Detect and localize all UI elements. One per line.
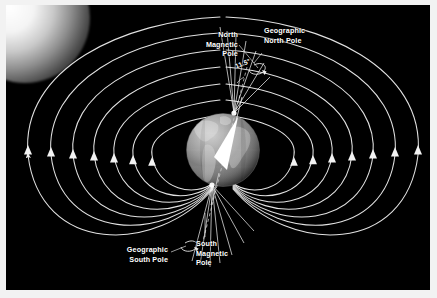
label-south-magnetic-pole: South Magnetic Pole [196, 239, 244, 268]
arrowhead-left-5 [110, 153, 118, 163]
label-north-magnetic-pole: North Magnetic Pole [182, 30, 238, 59]
arrowhead-right-7 [290, 157, 298, 166]
label-geographic-south-pole: Geographic South Pole [118, 245, 168, 264]
arrowhead-left-3 [69, 149, 77, 159]
arrowhead-left-6 [129, 155, 137, 164]
arrowhead-right-4 [348, 151, 356, 161]
arrowhead-left-7 [148, 157, 156, 166]
arrowhead-left-1 [24, 145, 32, 155]
arrowhead-left-2 [47, 147, 55, 157]
label-geographic-north-pole: Geographic North Pole [264, 26, 330, 45]
tilt-angle-arc [237, 77, 244, 83]
arrowhead-right-5 [328, 153, 336, 163]
south-magnetic-pole-point [209, 182, 214, 187]
arrowhead-right-1 [414, 145, 422, 155]
arrowhead-right-6 [309, 155, 317, 164]
north-magnetic-pole-point [231, 110, 236, 115]
magnetic-field-figure: North Magnetic Pole Geographic North Pol… [0, 0, 437, 298]
arrowhead-left-4 [90, 151, 98, 161]
arrowhead-right-2 [391, 147, 399, 157]
arrowhead-right-3 [369, 149, 377, 159]
illustration-scene: North Magnetic Pole Geographic North Pol… [6, 5, 430, 290]
